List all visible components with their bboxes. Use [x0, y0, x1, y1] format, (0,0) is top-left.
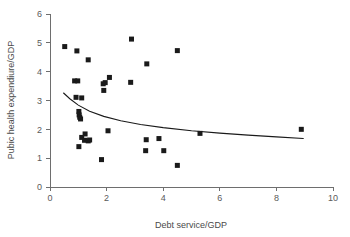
x-tick-label: 2: [104, 193, 109, 203]
data-point: [107, 75, 112, 80]
scatter-plot-figure: 0123456 0246810 Debt service/GDP Pubic h…: [0, 0, 350, 237]
x-tick-label: 6: [217, 193, 222, 203]
data-point: [175, 48, 180, 53]
data-point: [144, 137, 149, 142]
data-point: [197, 131, 202, 136]
y-tick-label: 4: [37, 67, 42, 77]
y-tick-label: 5: [37, 38, 42, 48]
fitted-trend-curve: [64, 93, 304, 139]
data-point: [143, 148, 148, 153]
x-tick-label: 4: [161, 193, 166, 203]
data-point: [156, 136, 161, 141]
chart-canvas: 0123456 0246810 Debt service/GDP Pubic h…: [0, 0, 350, 237]
data-point: [299, 127, 304, 132]
data-point: [62, 44, 67, 49]
y-axis-title: Pubic health expendiure/GDP: [6, 41, 16, 160]
y-tick-label: 1: [37, 153, 42, 163]
y-axis-ticks: 0123456: [37, 9, 50, 192]
x-tick-label: 0: [47, 193, 52, 203]
data-point: [76, 144, 81, 149]
data-point-markers: [62, 37, 304, 168]
data-point: [74, 48, 79, 53]
data-point: [128, 80, 133, 85]
data-point: [74, 95, 79, 100]
data-point: [175, 163, 180, 168]
x-tick-label: 8: [274, 193, 279, 203]
data-point: [99, 157, 104, 162]
data-point: [106, 128, 111, 133]
y-tick-label: 0: [37, 182, 42, 192]
x-axis-ticks: 0246810: [47, 187, 338, 203]
y-tick-label: 6: [37, 9, 42, 19]
x-tick-label: 10: [328, 193, 338, 203]
data-point: [87, 138, 92, 143]
data-point: [78, 116, 83, 121]
y-tick-label: 2: [37, 125, 42, 135]
data-point: [161, 148, 166, 153]
data-point: [144, 61, 149, 66]
data-point: [79, 95, 84, 100]
data-point: [86, 57, 91, 62]
data-point: [75, 78, 80, 83]
y-tick-label: 3: [37, 96, 42, 106]
data-point: [129, 37, 134, 42]
data-point: [103, 80, 108, 85]
data-point: [101, 88, 106, 93]
x-axis-title: Debt service/GDP: [155, 220, 227, 230]
